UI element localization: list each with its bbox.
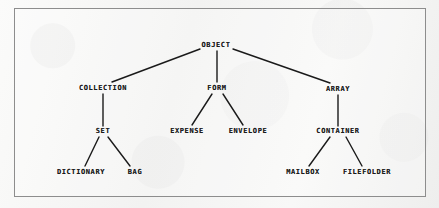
tree-node-collection[interactable]: COLLECTION bbox=[79, 84, 127, 92]
tree-node-object[interactable]: OBJECT bbox=[202, 41, 231, 49]
tree-node-bag[interactable]: BAG bbox=[128, 168, 142, 176]
tree-node-envelope[interactable]: ENVELOPE bbox=[229, 127, 268, 135]
tree-node-expense[interactable]: EXPENSE bbox=[170, 127, 204, 135]
tree-node-container[interactable]: CONTAINER bbox=[316, 127, 359, 135]
tree-node-set[interactable]: SET bbox=[96, 127, 110, 135]
tree-node-filefolder[interactable]: FILEFOLDER bbox=[343, 168, 391, 176]
tree-node-array[interactable]: ARRAY bbox=[326, 85, 350, 93]
tree-node-form[interactable]: FORM bbox=[207, 84, 226, 92]
tree-node-dictionary[interactable]: DICTIONARY bbox=[57, 168, 105, 176]
diagram-canvas: OBJECTCOLLECTIONFORMARRAYSETEXPENSEENVEL… bbox=[0, 0, 439, 208]
tree-node-mailbox[interactable]: MAILBOX bbox=[286, 168, 320, 176]
